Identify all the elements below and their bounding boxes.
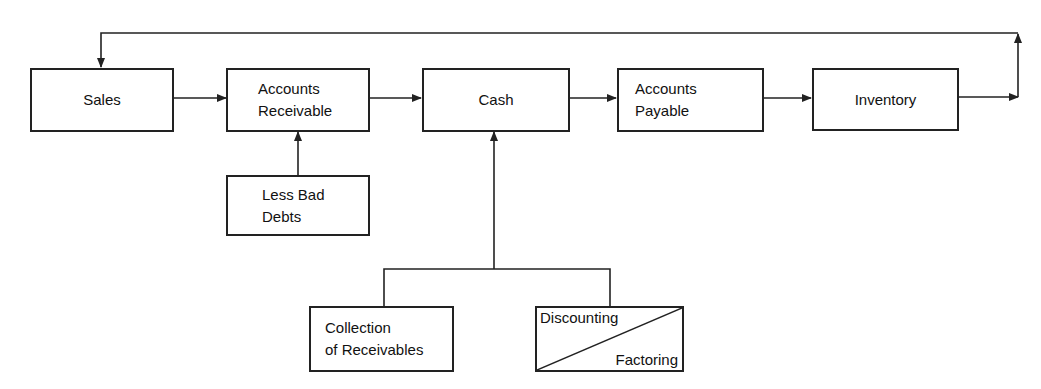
node-label: Sales (83, 89, 121, 111)
node-label: Accounts Receivable (258, 78, 332, 122)
node-label: Collection of Receivables (325, 317, 423, 361)
node-label-discounting: Discounting (540, 309, 618, 326)
node-accounts-receivable: Accounts Receivable (226, 68, 370, 132)
node-discounting-factoring: Discounting Factoring (535, 306, 684, 372)
node-label: Accounts Payable (635, 78, 697, 122)
node-collection-of-receivables: Collection of Receivables (309, 306, 454, 372)
node-label-factoring: Factoring (615, 351, 678, 368)
node-sales: Sales (30, 68, 174, 132)
node-label: Inventory (855, 89, 917, 111)
node-less-bad-debts: Less Bad Debts (226, 175, 370, 236)
node-label: Less Bad Debts (262, 184, 325, 228)
node-accounts-payable: Accounts Payable (617, 68, 764, 132)
connector-lines (0, 0, 1041, 389)
node-cash: Cash (422, 68, 570, 132)
node-inventory: Inventory (812, 68, 959, 131)
node-label: Cash (478, 89, 513, 111)
